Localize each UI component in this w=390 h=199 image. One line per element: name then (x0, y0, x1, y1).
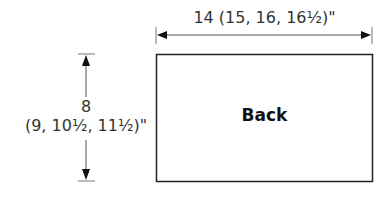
height-value: 8 (0, 97, 172, 116)
panel-label: Back (156, 105, 373, 125)
arrow-up-icon (82, 55, 90, 66)
width-dimension-line (156, 27, 372, 44)
arrow-left-icon (157, 31, 167, 39)
arrow-down-icon (82, 169, 90, 180)
width-dimension-label: 14 (15, 16, 16½)" (156, 8, 373, 27)
height-alternates: (9, 10½, 11½)" (0, 116, 172, 135)
arrow-right-icon (361, 31, 371, 39)
height-dimension-label: 8 (9, 10½, 11½)" (0, 97, 172, 135)
